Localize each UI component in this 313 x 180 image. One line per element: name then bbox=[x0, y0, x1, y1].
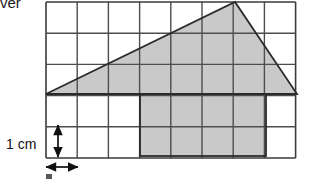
annotations-layer bbox=[46, 125, 78, 167]
diagram-canvas bbox=[0, 0, 313, 180]
shaded-rectangle bbox=[140, 94, 266, 156]
geometry-figure: ver 1 cm bbox=[0, 0, 313, 180]
